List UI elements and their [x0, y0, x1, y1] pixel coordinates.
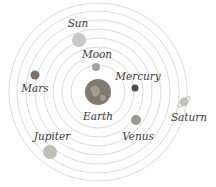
jupiter-label: Jupiter: [32, 130, 71, 142]
sun-icon: [72, 33, 86, 47]
geocentric-diagram: EarthMoonMercuryVenusSunMarsJupiterSatur…: [0, 0, 216, 187]
saturn-label: Saturn: [171, 111, 207, 123]
venus-label: Venus: [122, 130, 154, 142]
mars-label: Mars: [20, 82, 49, 94]
earth-label: Earth: [82, 110, 113, 122]
mercury-label: Mercury: [114, 70, 162, 82]
venus-icon: [131, 115, 141, 125]
mars-icon: [31, 71, 40, 80]
sun-label: Sun: [68, 17, 89, 29]
moon-label: Moon: [81, 48, 112, 60]
mercury-icon: [132, 85, 139, 92]
jupiter-icon: [43, 145, 57, 159]
moon-icon: [92, 63, 100, 71]
body-labels: EarthMoonMercuryVenusSunMarsJupiterSatur…: [20, 17, 207, 142]
